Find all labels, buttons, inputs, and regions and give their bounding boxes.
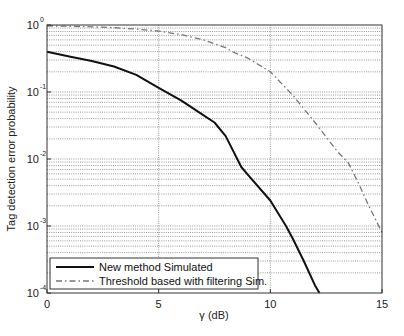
x-tick-label: 0 bbox=[44, 298, 50, 310]
grid-lines bbox=[47, 25, 382, 293]
y-tick-label: 10 bbox=[27, 287, 39, 299]
legend-label-new-method: New method Simulated bbox=[99, 261, 213, 273]
chart: 051015 10010-110-210-310-4 γ (dB) Tag de… bbox=[0, 0, 404, 336]
x-tick-label: 10 bbox=[264, 298, 276, 310]
y-axis-label: Tag detection error probability bbox=[5, 86, 17, 231]
y-tick-exponent: -4 bbox=[40, 284, 46, 291]
y-tick-label: 10 bbox=[27, 19, 39, 31]
y-tick-label: 10 bbox=[27, 153, 39, 165]
y-tick-exponent: 0 bbox=[40, 16, 44, 23]
y-tick-exponent: -1 bbox=[40, 83, 46, 90]
legend: New method Simulated Threshold based wit… bbox=[50, 258, 267, 289]
x-axis-ticks: 051015 bbox=[44, 289, 388, 310]
y-tick-label: 10 bbox=[27, 220, 39, 232]
series-new-method-line bbox=[47, 52, 320, 293]
y-tick-exponent: -3 bbox=[40, 217, 46, 224]
series-threshold-line bbox=[47, 26, 382, 233]
y-tick-label: 10 bbox=[27, 86, 39, 98]
x-tick-label: 5 bbox=[156, 298, 162, 310]
y-tick-exponent: -2 bbox=[40, 150, 46, 157]
legend-label-threshold: Threshold based with filtering Sim. bbox=[99, 275, 267, 287]
x-axis-label: γ (dB) bbox=[199, 309, 228, 321]
x-tick-label: 15 bbox=[376, 298, 388, 310]
